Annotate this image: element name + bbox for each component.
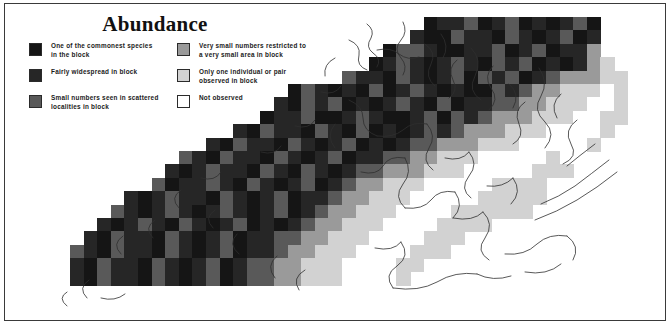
map-cell [410, 205, 424, 219]
map-cell [124, 205, 138, 219]
map-cell [437, 97, 451, 111]
map-cell [369, 231, 383, 245]
map-cell [356, 111, 370, 125]
map-cell [492, 30, 506, 44]
map-cell [247, 258, 261, 272]
map-cell [532, 30, 546, 44]
map-cell [532, 191, 546, 205]
map-cell [560, 44, 574, 58]
map-cell [492, 138, 506, 152]
map-cell [192, 151, 206, 165]
map-cell [356, 231, 370, 245]
map-cell [192, 218, 206, 232]
map-cell [179, 272, 193, 286]
map-cell [179, 164, 193, 178]
map-cell [464, 97, 478, 111]
map-cell [519, 97, 533, 111]
map-cell [220, 218, 234, 232]
map-cell [247, 231, 261, 245]
map-cell [152, 205, 166, 219]
map-cell [492, 164, 506, 178]
map-cell [587, 30, 601, 44]
map-cell [328, 151, 342, 165]
map-cell [505, 151, 519, 165]
map-cell [546, 164, 560, 178]
map-cell [532, 84, 546, 98]
map-cell [560, 111, 574, 125]
map-cell [437, 124, 451, 138]
map-cell [410, 178, 424, 192]
map-cell [328, 164, 342, 178]
map-cell [437, 205, 451, 219]
map-cell [437, 30, 451, 44]
map-cell [342, 218, 356, 232]
map-cell [424, 84, 438, 98]
map-cell [356, 245, 370, 259]
map-cell [152, 191, 166, 205]
map-cell [315, 164, 329, 178]
map-cell [383, 138, 397, 152]
map-cell [600, 124, 614, 138]
map-cell [179, 231, 193, 245]
map-cell [505, 84, 519, 98]
map-cell [573, 30, 587, 44]
map-cell [260, 231, 274, 245]
map-cell [424, 205, 438, 219]
legend-swatch-not-observed [177, 95, 190, 108]
map-cell [600, 71, 614, 85]
map-cell [233, 231, 247, 245]
map-cell [396, 111, 410, 125]
map-cell [532, 164, 546, 178]
map-cell [464, 44, 478, 58]
map-cell [587, 84, 601, 98]
map-cell [424, 97, 438, 111]
map-cell [301, 178, 315, 192]
legend-label-scattered: Small numbers seen in scattered localiti… [51, 94, 159, 111]
map-cell [84, 272, 98, 286]
map-cell [192, 191, 206, 205]
map-cell [165, 218, 179, 232]
map-cell [192, 164, 206, 178]
map-cell [233, 138, 247, 152]
map-cell [260, 272, 274, 286]
map-cell [233, 272, 247, 286]
map-cell [315, 205, 329, 219]
map-cell [437, 191, 451, 205]
map-cell [492, 71, 506, 85]
map-cell [573, 97, 587, 111]
map-cell [410, 258, 424, 272]
map-cell [410, 231, 424, 245]
map-cell [369, 164, 383, 178]
map-cell [424, 30, 438, 44]
map-cell [519, 84, 533, 98]
map-cell [274, 205, 288, 219]
map-cell [328, 272, 342, 286]
map-cell [464, 164, 478, 178]
map-cell [478, 218, 492, 232]
legend-label-commonest: One of the commonest species in the bloc… [51, 42, 152, 59]
map-cell [288, 272, 302, 286]
map-cell [138, 272, 152, 286]
map-cell [288, 258, 302, 272]
map-cell [505, 30, 519, 44]
map-cell [396, 44, 410, 58]
map-cell [560, 30, 574, 44]
map-cell [614, 71, 628, 85]
map-cell [505, 138, 519, 152]
map-cell [233, 151, 247, 165]
map-cell [492, 191, 506, 205]
map-cell [383, 191, 397, 205]
map-cell [369, 205, 383, 219]
map-cell [383, 258, 397, 272]
map-cell [437, 71, 451, 85]
map-cell [519, 191, 533, 205]
map-cell [451, 71, 465, 85]
map-cell [600, 97, 614, 111]
map-cell [165, 191, 179, 205]
map-cell [478, 17, 492, 31]
map-cell [274, 272, 288, 286]
map-cell [396, 57, 410, 71]
map-cell [587, 111, 601, 125]
map-cell [328, 124, 342, 138]
map-cell [519, 44, 533, 58]
